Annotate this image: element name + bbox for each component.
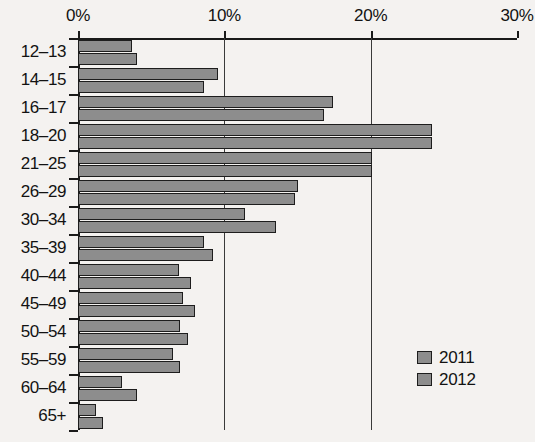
bar-2012-35-39 <box>78 249 213 261</box>
y-tick-3 <box>69 122 78 124</box>
bar-2011-35-39 <box>78 236 204 248</box>
chart-page: 0%10%20%30% 12–1314–1516–1718–2021–2526–… <box>0 0 535 442</box>
x-tick-label: 10% <box>208 6 241 26</box>
y-tick-2 <box>69 94 78 96</box>
bar-2011-21-25 <box>78 152 372 164</box>
bar-2011-12-13 <box>78 40 132 52</box>
x-tick-0 <box>78 31 80 38</box>
bar-2011-40-44 <box>78 264 179 276</box>
y-tick-4 <box>69 150 78 152</box>
legend-label: 2012 <box>439 371 476 388</box>
y-axis-label: 30–34 <box>21 210 66 230</box>
y-tick-9 <box>69 290 78 292</box>
bar-2012-50-54 <box>78 333 188 345</box>
bar-2012-60-64 <box>78 389 137 401</box>
bar-2012-55-59 <box>78 361 180 373</box>
y-tick-1 <box>69 66 78 68</box>
legend-swatch-icon <box>417 373 432 386</box>
y-tick-8 <box>69 262 78 264</box>
x-tick-3 <box>517 31 519 38</box>
x-tick-label: 20% <box>354 6 387 26</box>
legend-label: 2011 <box>439 349 474 366</box>
y-axis-label: 12–13 <box>21 42 66 62</box>
bar-2011-30-34 <box>78 208 245 220</box>
legend-swatch-icon <box>417 351 432 364</box>
bar-2011-14-15 <box>78 68 218 80</box>
y-axis-label: 35–39 <box>21 238 66 258</box>
bar-2011-16-17 <box>78 96 333 108</box>
bar-2012-16-17 <box>78 109 324 121</box>
x-tick-label: 30% <box>500 6 533 26</box>
y-axis-label: 45–49 <box>21 294 66 314</box>
bar-2012-18-20 <box>78 137 432 149</box>
chart-legend: 20112012 <box>417 349 476 388</box>
y-axis-label: 18–20 <box>21 126 66 146</box>
y-axis-label: 40–44 <box>21 266 66 286</box>
y-axis-label: 65+ <box>38 406 66 426</box>
bar-2012-40-44 <box>78 277 191 289</box>
bar-2011-55-59 <box>78 348 173 360</box>
bar-2011-26-29 <box>78 180 298 192</box>
x-tick-label: 0% <box>66 6 90 26</box>
bar-2011-45-49 <box>78 292 183 304</box>
y-tick-6 <box>69 206 78 208</box>
y-axis-label: 26–29 <box>21 182 66 202</box>
bar-2012-26-29 <box>78 193 295 205</box>
x-tick-1 <box>224 31 226 38</box>
x-tick-2 <box>371 31 373 38</box>
bar-2012-12-13 <box>78 53 137 65</box>
bar-2012-65+ <box>78 417 103 429</box>
bar-2012-14-15 <box>78 81 204 93</box>
y-axis-label: 21–25 <box>21 154 66 174</box>
bar-2011-18-20 <box>78 124 432 136</box>
bar-2011-60-64 <box>78 376 122 388</box>
y-tick-10 <box>69 318 78 320</box>
y-tick-12 <box>69 374 78 376</box>
bar-2011-50-54 <box>78 320 180 332</box>
y-tick-0 <box>69 38 78 40</box>
bar-2011-65+ <box>78 404 96 416</box>
y-tick-7 <box>69 234 78 236</box>
y-tick-11 <box>69 346 78 348</box>
y-axis-label: 16–17 <box>21 98 66 118</box>
y-tick-5 <box>69 178 78 180</box>
y-axis-label: 55–59 <box>21 350 66 370</box>
gridline <box>371 38 372 430</box>
y-tick-end <box>69 430 78 432</box>
x-axis-line <box>78 38 517 40</box>
y-axis-label: 60–64 <box>21 378 66 398</box>
y-axis-label: 50–54 <box>21 322 66 342</box>
legend-item[interactable]: 2011 <box>417 349 476 366</box>
bar-2012-45-49 <box>78 305 195 317</box>
y-tick-13 <box>69 402 78 404</box>
y-axis-label: 14–15 <box>21 70 66 90</box>
bar-2012-21-25 <box>78 165 372 177</box>
bar-2012-30-34 <box>78 221 276 233</box>
legend-item[interactable]: 2012 <box>417 371 476 388</box>
